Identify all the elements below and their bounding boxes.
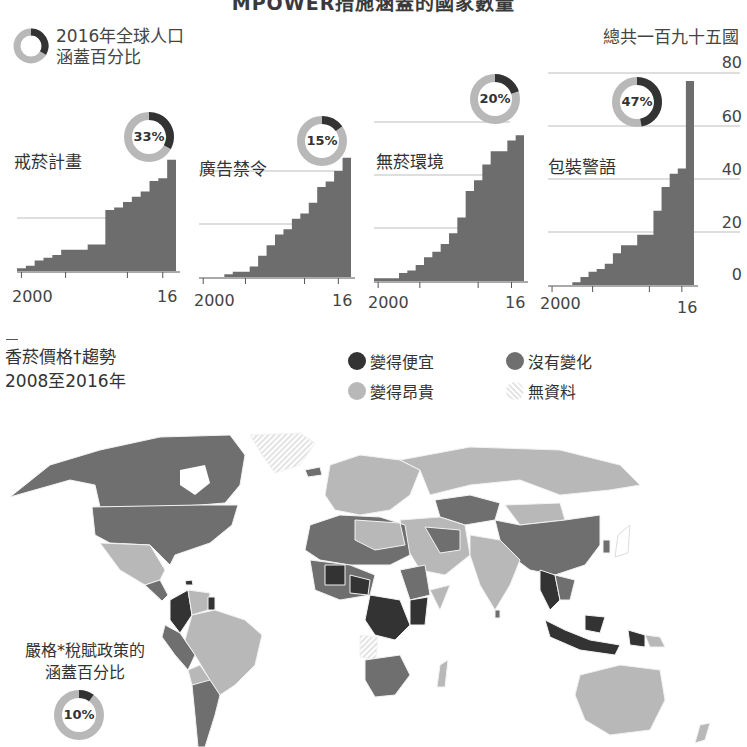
- legend-pricier: 變得昂貴: [348, 379, 506, 403]
- x-start-label: 2000: [368, 293, 409, 312]
- tax-note-text: 嚴格*稅賦政策的 涵蓋百分比: [10, 640, 160, 684]
- dot-nodata-icon: [506, 382, 524, 400]
- x-end-label: 16: [505, 293, 525, 312]
- drc: [365, 595, 410, 640]
- y-tick-60: 60: [702, 107, 742, 126]
- argentina: [192, 680, 220, 747]
- x-end-label: 16: [157, 287, 177, 306]
- indonesia: [545, 620, 620, 655]
- donut-label: 15%: [295, 114, 349, 168]
- legend-label: 沒有變化: [528, 349, 592, 373]
- map-legend: 變得便宜 沒有變化 變得昂貴 無資料: [348, 349, 626, 403]
- dot-light-icon: [348, 382, 366, 400]
- bar-chart-2: [374, 122, 528, 288]
- legend-no-change: 沒有變化: [506, 349, 626, 373]
- dot-dark-icon: [348, 352, 366, 370]
- legend-label: 變得便宜: [370, 349, 434, 373]
- russia: [400, 447, 640, 495]
- dot-medium-icon: [506, 352, 524, 370]
- legend-label: 無資料: [528, 379, 576, 403]
- x-start-label: 2000: [12, 287, 53, 306]
- price-section-title: 香菸價格†趨勢 2008至2016年: [5, 345, 126, 393]
- legend-label: 變得昂貴: [370, 379, 434, 403]
- tax-note-line2: 涵蓋百分比: [10, 662, 160, 684]
- tax-note-line1: 嚴格*稅賦政策的: [10, 640, 160, 662]
- y-tick-80: 80: [702, 53, 742, 72]
- y-tick-40: 40: [702, 160, 742, 179]
- x-start-label: 2000: [540, 294, 581, 313]
- chart-title-smokefree: 無菸環境: [376, 148, 444, 173]
- price-title-line2: 2008至2016年: [5, 369, 126, 393]
- chart-title-cessation: 戒菸計畫: [14, 148, 82, 173]
- donut-cessation: 33%: [122, 110, 176, 164]
- donut-label: 33%: [122, 110, 176, 164]
- australia: [575, 665, 665, 735]
- canada-alaska: [10, 435, 245, 507]
- donut-label: 10%: [52, 688, 106, 742]
- legend-cheaper: 變得便宜: [348, 349, 506, 373]
- donut-label: 47%: [610, 75, 664, 129]
- y-tick-0: 0: [702, 265, 742, 284]
- greenland: [250, 433, 315, 473]
- legend-no-data: 無資料: [506, 379, 626, 403]
- donut-tax: 10%: [52, 688, 106, 742]
- y-tick-20: 20: [702, 213, 742, 232]
- chart-title-ad-ban: 廣告禁令: [199, 155, 267, 180]
- donut-ad-ban: 15%: [295, 114, 349, 168]
- chart-title-warnings: 包裝警語: [548, 153, 616, 178]
- europe: [325, 455, 420, 515]
- price-title-line1: 香菸價格†趨勢: [5, 345, 126, 369]
- bar-charts: [0, 0, 747, 330]
- section-divider: [6, 339, 18, 340]
- bar-chart-0: [17, 160, 180, 278]
- x-end-label: 16: [332, 291, 352, 310]
- x-start-label: 2000: [194, 291, 235, 310]
- donut-smokefree: 20%: [468, 72, 522, 126]
- donut-warnings: 47%: [610, 75, 664, 129]
- donut-label: 20%: [468, 72, 522, 126]
- x-end-label: 16: [677, 298, 697, 317]
- world-map: [0, 425, 747, 747]
